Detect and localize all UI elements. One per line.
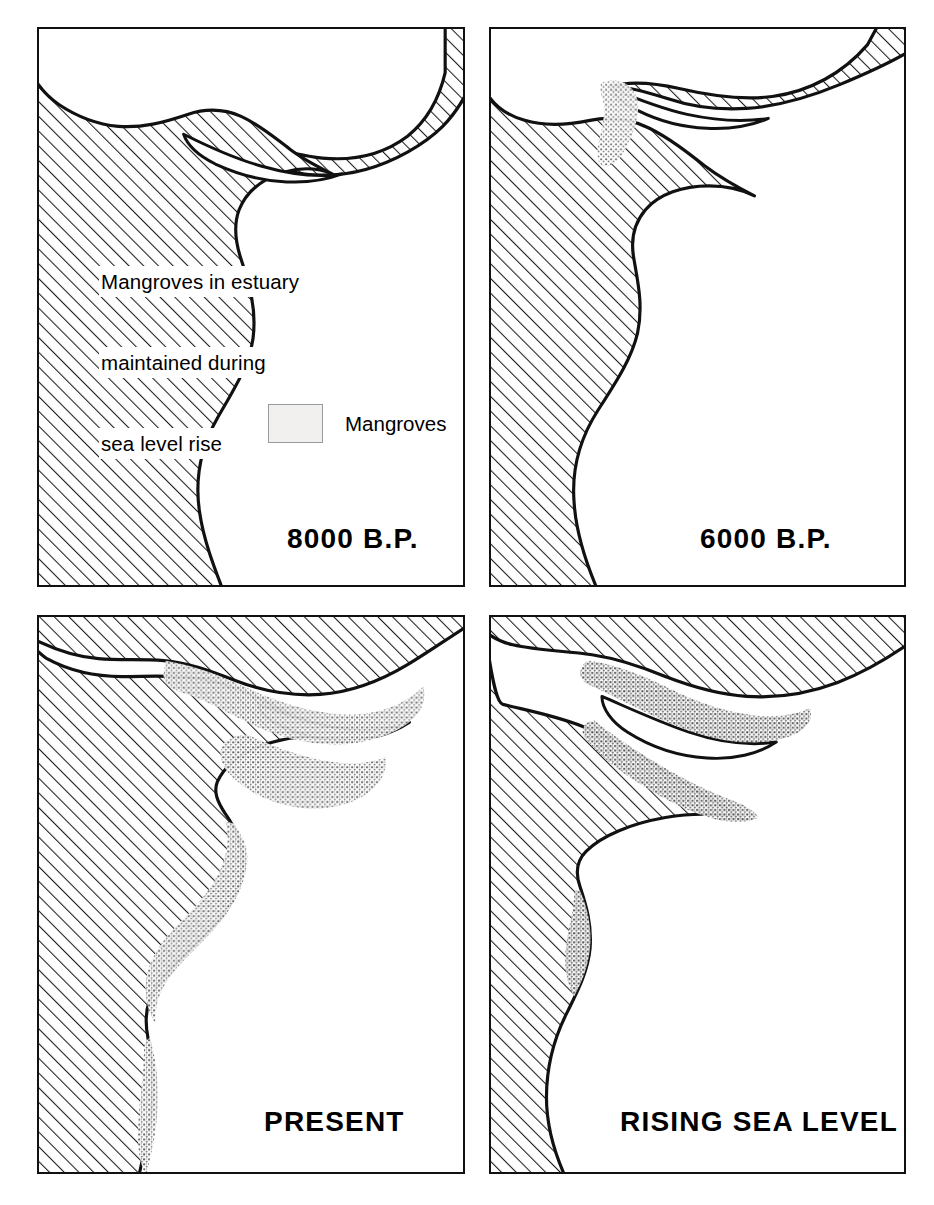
panel-8000bp: Mangroves in estuary maintained during s… (37, 27, 465, 587)
era-label-6000bp: 6000 B.P. (700, 523, 832, 555)
panel-rising: Recession of seaward edge as mangroves s… (489, 615, 906, 1174)
note-8000bp: Mangroves in estuary maintained during s… (101, 214, 299, 511)
panel-6000bp: Sea level stabilises and mangroves begin… (489, 27, 906, 587)
panel-6000bp-map (491, 29, 904, 585)
mangrove-evolution-figure: Mangroves in estuary maintained during s… (0, 0, 934, 1205)
era-label-rising: RISING SEA LEVEL (620, 1106, 898, 1138)
legend-label: Mangroves (345, 412, 446, 436)
mangrove-band-present-mid (220, 735, 386, 809)
panel-rising-map (491, 617, 904, 1172)
era-label-present: PRESENT (264, 1106, 405, 1138)
note-line: sea level rise (101, 430, 222, 457)
land-north-6000bp (491, 29, 904, 109)
legend-mangroves: Mangroves (268, 404, 446, 443)
panel-present: Mangroves spreading seaward , become est… (37, 615, 465, 1174)
land-north-rising (491, 617, 904, 697)
note-line: maintained during (101, 349, 266, 376)
mangroves-swatch-icon (268, 404, 323, 443)
era-label-8000bp: 8000 B.P. (287, 523, 419, 555)
note-line: Mangroves in estuary (101, 268, 299, 295)
panel-present-map (39, 617, 463, 1172)
